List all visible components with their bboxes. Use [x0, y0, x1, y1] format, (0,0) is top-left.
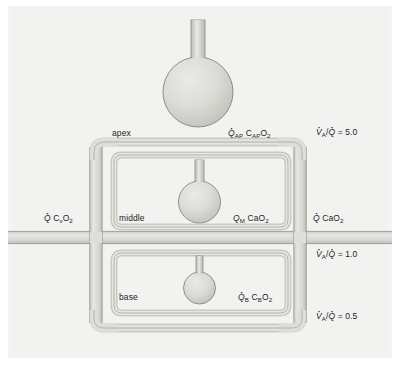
middle-alveolus — [179, 160, 221, 223]
ratio-middle-numerator: V — [316, 249, 322, 259]
ratio-base-denominator: Q — [328, 311, 335, 321]
ratio-middle-equals: = — [338, 249, 343, 259]
ratio-middle-value: 1.0 — [345, 249, 357, 259]
base-flow-q-symbol: Q — [238, 292, 245, 302]
ratio-apex-denominator: Q — [328, 127, 335, 137]
apex-flow-content-symbol: C — [246, 128, 252, 138]
inflow-content-tail-subscript: 2 — [69, 217, 73, 224]
base-flow-q-subscript: B — [245, 296, 249, 303]
label-ratio-base: VA/Q = 0.5 — [316, 311, 357, 321]
outflow-junction — [294, 147, 307, 323]
ratio-base-numerator-subscript: A — [322, 315, 326, 322]
apex-flow-q-symbol: Q — [228, 128, 235, 138]
inflow-content-subscript: v — [59, 217, 62, 224]
outflow-content-symbol: CaO — [322, 213, 340, 223]
apex-flow-q-subscript: AP — [235, 132, 243, 139]
label-inflow: Q CvO2 — [44, 213, 73, 223]
main-blood-vessel — [8, 231, 392, 244]
label-outflow: Q CaO2 — [313, 213, 344, 223]
outflow-content-subscript: 2 — [340, 217, 344, 224]
label-base-flow: QB CBO2 — [238, 292, 272, 302]
label-base: base — [119, 292, 138, 302]
base-alveolus — [184, 256, 216, 304]
label-apex: apex — [112, 128, 131, 138]
base-flow-content-symbol: C — [251, 292, 257, 302]
outflow-q-symbol: Q — [313, 213, 320, 223]
label-apex-flow: QAP CAPO2 — [228, 128, 271, 138]
ratio-base-value: 0.5 — [345, 311, 357, 321]
inflow-junction — [90, 147, 103, 323]
middle-flow-content-symbol: CaO — [247, 213, 265, 223]
ratio-apex-equals: = — [338, 127, 343, 137]
vq-diagram-figure: apex QAP CAPO2 VA/Q = 5.0 Q CvO2 middle … — [0, 0, 400, 366]
base-flow-content-tail: O — [262, 292, 269, 302]
ratio-base-equals: = — [338, 311, 343, 321]
base-flow-content-subscript: B — [258, 296, 262, 303]
inflow-q-symbol: Q — [44, 213, 51, 223]
label-ratio-apex: VA/Q = 5.0 — [316, 127, 357, 137]
label-ratio-middle: VA/Q = 1.0 — [316, 249, 357, 259]
ratio-base-numerator: V — [316, 311, 322, 321]
middle-flow-q-symbol: Q — [233, 213, 240, 223]
ratio-apex-numerator: V — [316, 127, 322, 137]
apex-alveolus — [163, 20, 233, 127]
label-middle-flow: QM CaO2 — [233, 213, 269, 223]
apex-flow-content-subscript: AP — [252, 132, 260, 139]
apex-flow-content-tail-subscript: 2 — [267, 132, 271, 139]
ratio-middle-numerator-subscript: A — [322, 253, 326, 260]
ratio-middle-denominator: Q — [328, 249, 335, 259]
base-flow-content-tail-subscript: 2 — [269, 296, 273, 303]
ratio-apex-numerator-subscript: A — [322, 131, 326, 138]
middle-flow-q-subscript: M — [240, 217, 245, 224]
ratio-apex-value: 5.0 — [345, 127, 357, 137]
middle-flow-content-subscript: 2 — [265, 217, 269, 224]
label-middle: middle — [119, 213, 145, 223]
